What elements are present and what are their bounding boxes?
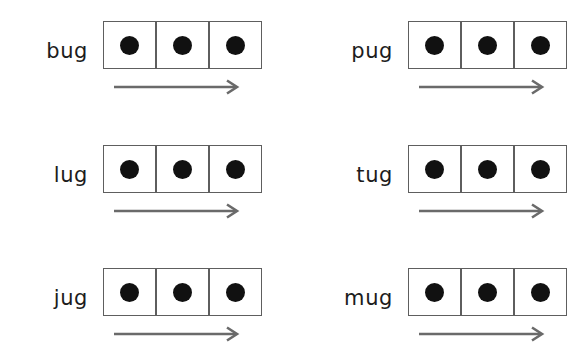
sound-box-cell[interactable]: [156, 268, 209, 316]
sound-box-cell[interactable]: [103, 21, 156, 69]
sound-boxes: [103, 21, 262, 69]
sound-box-cell[interactable]: [514, 145, 567, 193]
sound-box-cell[interactable]: [408, 268, 461, 316]
filled-circle-icon: [531, 160, 550, 179]
word-box-item: pug: [323, 21, 570, 121]
word-box-item: mug: [323, 268, 570, 356]
sound-box-cell[interactable]: [461, 268, 514, 316]
filled-circle-icon: [173, 36, 192, 55]
sound-box-cell[interactable]: [408, 21, 461, 69]
filled-circle-icon: [226, 36, 245, 55]
word-label: lug: [18, 163, 88, 187]
sound-boxes: [408, 268, 567, 316]
word-label: mug: [323, 286, 393, 310]
filled-circle-icon: [120, 283, 139, 302]
right-arrow-icon: [113, 203, 243, 219]
word-box-item: jug: [18, 268, 265, 356]
word-label: bug: [18, 39, 88, 63]
filled-circle-icon: [531, 283, 550, 302]
word-box-item: lug: [18, 145, 265, 245]
sound-box-cell[interactable]: [209, 145, 262, 193]
sound-boxes: [408, 145, 567, 193]
word-label: jug: [18, 286, 88, 310]
filled-circle-icon: [425, 160, 444, 179]
filled-circle-icon: [226, 160, 245, 179]
right-arrow-icon: [113, 326, 243, 342]
sound-box-cell[interactable]: [103, 268, 156, 316]
phoneme-worksheet: bugpuglugtugjugmug: [0, 0, 581, 356]
word-label: tug: [323, 163, 393, 187]
filled-circle-icon: [120, 160, 139, 179]
sound-box-cell[interactable]: [209, 21, 262, 69]
sound-box-cell[interactable]: [209, 268, 262, 316]
sound-box-cell[interactable]: [461, 21, 514, 69]
sound-box-cell[interactable]: [514, 268, 567, 316]
sound-box-cell[interactable]: [103, 145, 156, 193]
filled-circle-icon: [478, 283, 497, 302]
sound-boxes: [103, 145, 262, 193]
filled-circle-icon: [531, 36, 550, 55]
word-box-item: bug: [18, 21, 265, 121]
filled-circle-icon: [173, 283, 192, 302]
filled-circle-icon: [226, 283, 245, 302]
right-arrow-icon: [418, 203, 548, 219]
filled-circle-icon: [120, 36, 139, 55]
sound-box-cell[interactable]: [156, 145, 209, 193]
right-arrow-icon: [113, 79, 243, 95]
right-arrow-icon: [418, 79, 548, 95]
filled-circle-icon: [478, 160, 497, 179]
filled-circle-icon: [425, 36, 444, 55]
sound-box-cell[interactable]: [461, 145, 514, 193]
right-arrow-icon: [418, 326, 548, 342]
filled-circle-icon: [173, 160, 192, 179]
filled-circle-icon: [478, 36, 497, 55]
word-box-item: tug: [323, 145, 570, 245]
filled-circle-icon: [425, 283, 444, 302]
sound-box-cell[interactable]: [156, 21, 209, 69]
sound-box-cell[interactable]: [514, 21, 567, 69]
sound-box-cell[interactable]: [408, 145, 461, 193]
sound-boxes: [103, 268, 262, 316]
sound-boxes: [408, 21, 567, 69]
word-label: pug: [323, 39, 393, 63]
